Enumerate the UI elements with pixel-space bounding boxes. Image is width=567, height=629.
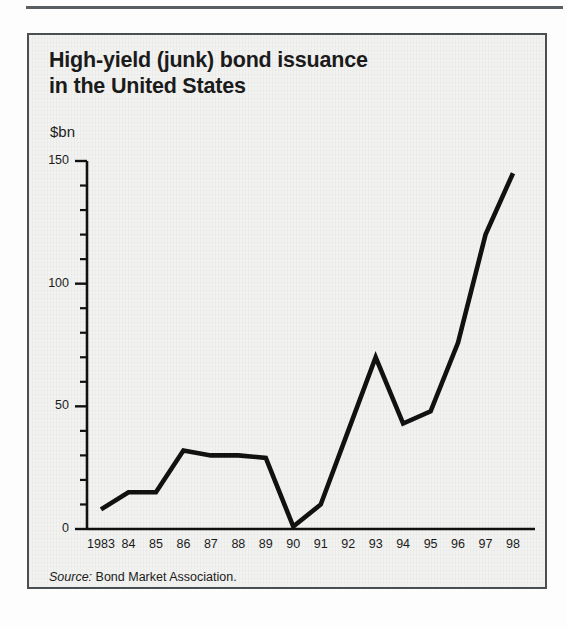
- chart-axes: [87, 161, 535, 529]
- chart-figure: High-yield (junk) bond issuance in the U…: [27, 33, 547, 589]
- data-series-line: [101, 173, 513, 526]
- page-top-rule: [26, 6, 563, 9]
- y-axis-major-ticks: [75, 161, 87, 529]
- source-text: Bond Market Association.: [96, 570, 237, 584]
- line-chart-plot: [29, 35, 549, 591]
- y-axis-tick-label: 100: [29, 276, 69, 290]
- y-axis-tick-label: 0: [29, 521, 69, 535]
- x-axis-tick-label: 98: [493, 537, 533, 551]
- y-axis-tick-label: 150: [29, 153, 69, 167]
- page-canvas: High-yield (junk) bond issuance in the U…: [0, 0, 567, 629]
- y-axis-tick-label: 50: [29, 398, 69, 412]
- chart-source: Source: Bond Market Association.: [49, 570, 237, 584]
- source-label: Source:: [49, 570, 92, 584]
